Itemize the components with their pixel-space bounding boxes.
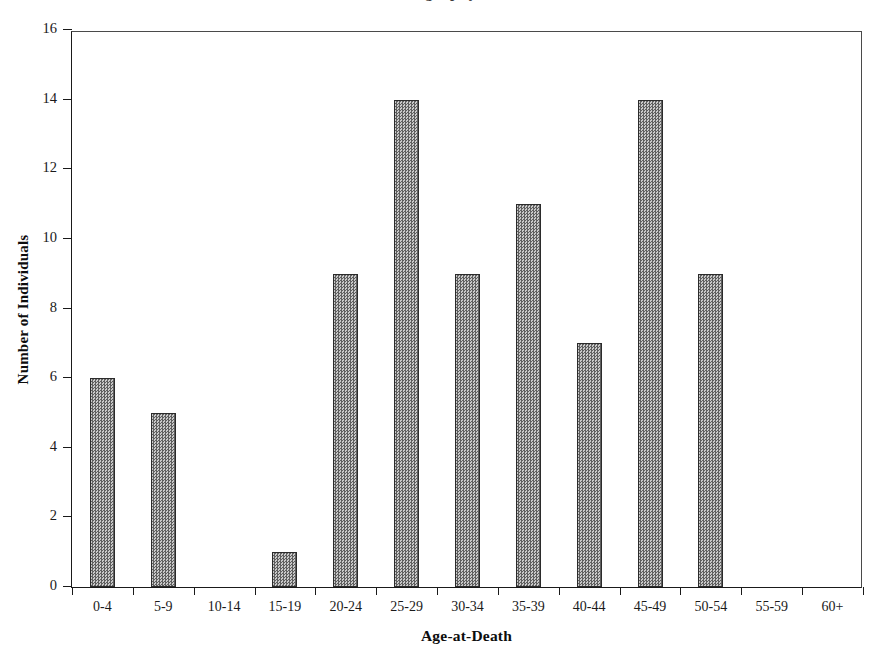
- y-axis-tick: 4: [63, 447, 72, 448]
- x-axis-category-label: 10-14: [194, 599, 255, 615]
- y-axis-tick: 6: [63, 377, 72, 378]
- y-axis-tick: 12: [63, 168, 72, 169]
- x-axis-category-label: 15-19: [255, 599, 316, 615]
- x-axis-tick: [72, 587, 73, 595]
- x-axis-category-label: 60+: [802, 599, 863, 615]
- bar: [638, 100, 663, 587]
- y-axis-tick: 2: [63, 516, 72, 517]
- bar: [394, 100, 419, 587]
- y-axis-tick: 0: [63, 586, 72, 587]
- bar: [272, 552, 297, 587]
- plot-area: 0246810121416 0-45-910-1415-1920-2425-29…: [71, 31, 862, 588]
- y-axis-tick-label: 8: [50, 299, 57, 316]
- y-axis-title: Number of Individuals: [12, 31, 34, 588]
- bar: [577, 343, 602, 587]
- bar: [455, 274, 480, 587]
- y-axis-tick-label: 10: [43, 229, 58, 246]
- x-axis-tick: [863, 587, 864, 595]
- bar: [333, 274, 358, 587]
- x-axis-tick: [559, 587, 560, 595]
- histogram-figure: osteobiography of the Number of Individu…: [0, 0, 889, 663]
- y-axis-tick: 8: [63, 308, 72, 309]
- bar: [90, 378, 115, 587]
- x-axis-tick: [376, 587, 377, 595]
- y-axis-tick-label: 16: [43, 20, 58, 37]
- x-axis-tick: [680, 587, 681, 595]
- y-axis-tick-label: 14: [43, 90, 58, 107]
- bar: [516, 204, 541, 587]
- y-axis-tick: 10: [63, 238, 72, 239]
- x-axis-tick: [802, 587, 803, 595]
- x-axis-title: Age-at-Death: [71, 627, 862, 645]
- x-axis-category-label: 55-59: [741, 599, 802, 615]
- x-axis-tick: [133, 587, 134, 595]
- x-axis-category-label: 25-29: [376, 599, 437, 615]
- y-axis-tick-label: 4: [50, 438, 57, 455]
- bar: [151, 413, 176, 587]
- x-axis-tick: [498, 587, 499, 595]
- x-axis-tick: [255, 587, 256, 595]
- x-axis-category-label: 20-24: [315, 599, 376, 615]
- x-axis-category-label: 40-44: [559, 599, 620, 615]
- clipped-caption-remnant: osteobiography of the: [0, 0, 889, 9]
- y-axis-tick-label: 12: [43, 159, 58, 176]
- x-axis-tick: [194, 587, 195, 595]
- bar: [698, 274, 723, 587]
- x-axis-tick: [741, 587, 742, 595]
- x-axis-tick: [620, 587, 621, 595]
- x-axis-tick: [315, 587, 316, 595]
- x-axis-tick: [437, 587, 438, 595]
- x-axis-category-label: 5-9: [133, 599, 194, 615]
- x-axis-category-label: 45-49: [620, 599, 681, 615]
- y-axis-tick: 14: [63, 99, 72, 100]
- x-axis-category-label: 35-39: [498, 599, 559, 615]
- y-axis-tick-label: 0: [50, 577, 57, 594]
- y-axis-tick-label: 2: [50, 507, 57, 524]
- x-axis-category-label: 0-4: [72, 599, 133, 615]
- x-axis-category-label: 50-54: [680, 599, 741, 615]
- x-axis-category-label: 30-34: [437, 599, 498, 615]
- y-axis-tick-label: 6: [50, 368, 57, 385]
- y-axis-tick: 16: [63, 29, 72, 30]
- caption-remnant-text: osteobiography of the: [365, 0, 524, 1]
